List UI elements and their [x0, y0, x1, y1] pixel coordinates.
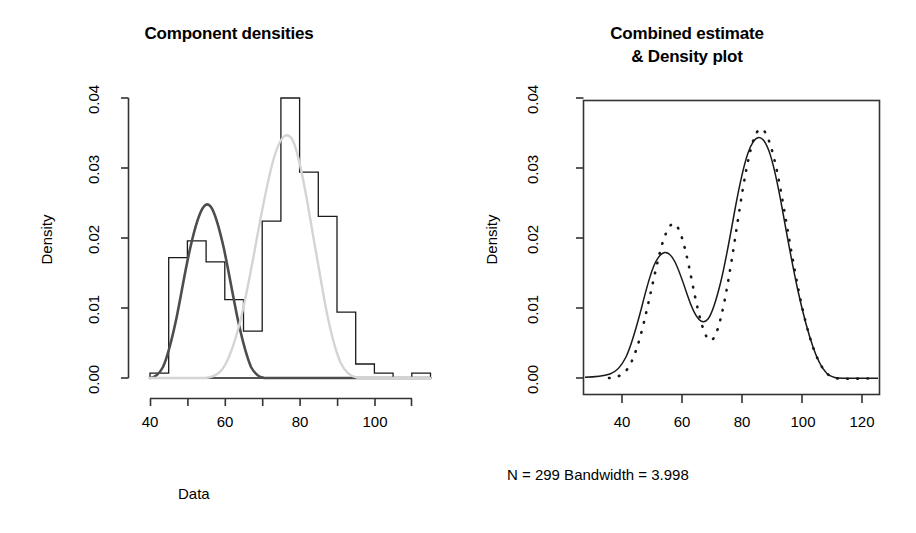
plot-box [584, 101, 880, 395]
y-axis [121, 98, 129, 378]
component-1-density-curve [150, 204, 431, 378]
x-axis [150, 399, 412, 407]
panel-combined-estimate: Combined estimate & Density plot Density… [458, 0, 916, 533]
combined-estimate-curve [609, 129, 877, 379]
left-plot-canvas [0, 0, 458, 533]
panel-component-densities: Component densities Density Data 0.00 0.… [0, 0, 458, 533]
right-plot-canvas [458, 0, 916, 533]
density-plot-curve [585, 137, 878, 378]
component-2-density-curve [150, 135, 431, 378]
y-axis-ticks-right [576, 98, 584, 378]
x-axis-ticks-right [622, 395, 862, 404]
